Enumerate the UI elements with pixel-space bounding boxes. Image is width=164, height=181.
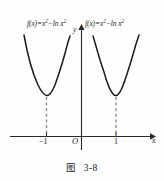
function-label-left: f(x)=x2−ln x2 bbox=[27, 19, 66, 28]
y-axis-arrow-icon bbox=[78, 24, 84, 30]
function-label-right-exponent-2: 2 bbox=[121, 18, 124, 24]
origin-label: O bbox=[72, 136, 78, 146]
y-axis-label: y bbox=[73, 25, 76, 34]
function-label-left-middle: −ln x bbox=[48, 19, 64, 28]
function-label-right: f(x)=x2−ln x2 bbox=[85, 19, 124, 28]
function-label-right-middle: −ln x bbox=[106, 19, 122, 28]
figure-caption-prefix: 图 bbox=[66, 163, 77, 173]
function-label-left-base: f(x)=x bbox=[27, 19, 45, 28]
tick-label-pos1: 1 bbox=[114, 137, 118, 146]
curve-left-branch bbox=[24, 35, 70, 96]
function-label-right-base: f(x)=x bbox=[85, 19, 103, 28]
x-axis-label: x bbox=[152, 136, 156, 145]
function-label-left-exponent-2: 2 bbox=[63, 18, 66, 24]
tick-label-neg1: −1 bbox=[39, 137, 48, 146]
figure-caption: 图3-8 bbox=[0, 160, 164, 174]
figure-container: f(x)=x2−ln x2 f(x)=x2−ln x2 y x O −1 1 图… bbox=[0, 0, 164, 181]
figure-caption-number: 3-8 bbox=[84, 163, 98, 173]
graph-canvas bbox=[0, 0, 164, 181]
curve-right-branch bbox=[93, 35, 139, 96]
